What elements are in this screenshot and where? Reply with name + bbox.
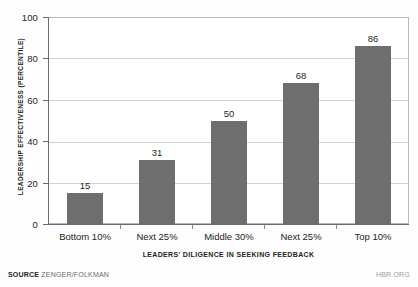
source-credit: Source Zenger/Folkman xyxy=(8,271,109,278)
chart-footer: Source Zenger/Folkman HBR.org xyxy=(8,271,410,283)
bar-value-middle-30: 50 xyxy=(204,108,254,119)
y-tick-label-100: 100 xyxy=(0,12,38,23)
x-category-label-next-25-low: Next 25% xyxy=(121,231,193,242)
y-tick-label-20: 20 xyxy=(0,178,38,189)
x-tick-mark-1 xyxy=(120,225,121,229)
bar-value-top-10: 86 xyxy=(348,33,398,44)
y-axis-line xyxy=(48,17,49,225)
x-category-label-next-25-high: Next 25% xyxy=(265,231,337,242)
y-tick-label-60: 60 xyxy=(0,95,38,106)
bar-middle-30 xyxy=(211,121,247,224)
x-axis-title: Leaders' diligence in seeking feedback xyxy=(48,251,409,258)
x-category-label-top-10: Top 10% xyxy=(337,231,409,242)
bar-top-10 xyxy=(355,46,391,224)
source-label: Source xyxy=(8,271,39,278)
chart-figure: Leadership effectiveness (percentile) 10… xyxy=(0,0,418,287)
x-axis-line xyxy=(48,224,409,225)
publisher-mark: HBR.org xyxy=(376,271,410,278)
bar-value-next-25-high: 68 xyxy=(276,70,326,81)
y-tick-label-0: 0 xyxy=(0,219,38,230)
x-tick-mark-2 xyxy=(192,225,193,229)
bar-bottom-10 xyxy=(67,193,103,224)
x-tick-mark-3 xyxy=(264,225,265,229)
bar-value-bottom-10: 15 xyxy=(60,180,110,191)
y-tick-label-80: 80 xyxy=(0,53,38,64)
bar-next-25-low xyxy=(139,160,175,224)
bar-next-25-high xyxy=(283,83,319,224)
x-tick-mark-4 xyxy=(336,225,337,229)
x-category-label-middle-30: Middle 30% xyxy=(193,231,265,242)
x-category-label-bottom-10: Bottom 10% xyxy=(49,231,121,242)
source-value: Zenger/Folkman xyxy=(41,271,109,278)
y-tick-label-40: 40 xyxy=(0,136,38,147)
bar-value-next-25-low: 31 xyxy=(132,147,182,158)
